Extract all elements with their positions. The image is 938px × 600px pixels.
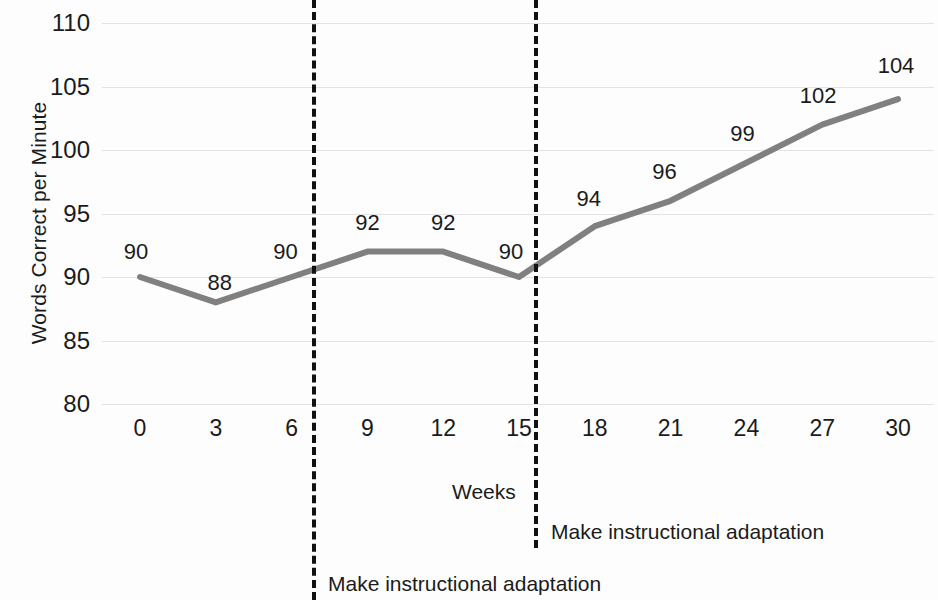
data-point-label: 99 (710, 123, 774, 145)
data-point-label: 90 (254, 241, 318, 263)
y-axis-tick-label: 105 (28, 75, 90, 99)
data-point-label: 96 (633, 161, 697, 183)
x-axis-tick-labels: 036912151821242730 (0, 416, 938, 450)
data-point-label: 92 (411, 212, 475, 234)
x-axis-tick-label: 21 (641, 416, 701, 441)
y-axis-tick-label: 80 (28, 392, 90, 416)
x-axis-tick-label: 24 (716, 416, 776, 441)
plot-area (102, 20, 934, 408)
x-axis-tick-label: 0 (110, 416, 170, 441)
data-point-label: 94 (557, 188, 621, 210)
phase-line-second (534, 0, 538, 548)
x-axis-tick-label: 9 (337, 416, 397, 441)
y-axis-tick-label: 110 (28, 11, 90, 35)
annotation-second-phase-line: Make instructional adaptation (551, 521, 824, 542)
x-axis-tick-label: 6 (262, 416, 322, 441)
data-point-label: 90 (104, 241, 168, 263)
data-point-label: 88 (188, 272, 252, 294)
y-axis-tick-labels: 80859095100105110 (28, 0, 90, 600)
y-axis-tick-label: 90 (28, 265, 90, 289)
progress-monitoring-line-chart: Words Correct per Minute 808590951001051… (0, 0, 938, 600)
data-series-line (102, 20, 934, 408)
data-point-label: 92 (335, 212, 399, 234)
x-axis-tick-label: 18 (565, 416, 625, 441)
y-axis-tick-label: 100 (28, 138, 90, 162)
x-axis-tick-label: 15 (489, 416, 549, 441)
annotation-first-phase-line: Make instructional adaptation (328, 573, 601, 594)
phase-line-first (312, 0, 316, 600)
x-axis-tick-label: 3 (186, 416, 246, 441)
x-axis-tick-label: 12 (413, 416, 473, 441)
x-axis-title: Weeks (452, 481, 516, 502)
y-axis-tick-label: 95 (28, 202, 90, 226)
data-point-label: 102 (786, 85, 850, 107)
y-axis-tick-label: 85 (28, 329, 90, 353)
data-point-label: 104 (864, 55, 928, 77)
x-axis-tick-label: 27 (792, 416, 852, 441)
x-axis-tick-label: 30 (868, 416, 928, 441)
